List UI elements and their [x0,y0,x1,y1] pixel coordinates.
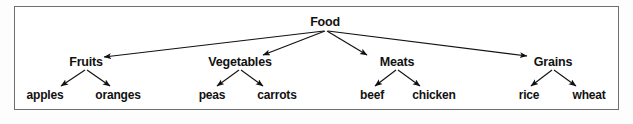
tree-node-leaf: apples [27,88,64,102]
tree-node-leaf: beef [360,88,384,102]
tree-node-category: Grains [534,55,572,69]
tree-edge-arrow [398,70,420,86]
tree-edge-arrow [554,70,576,86]
tree-edge-arrow [217,70,239,86]
tree-node-leaf: rice [519,88,540,102]
tree-edge-arrow [531,70,552,86]
tree-edge-arrow [61,70,85,86]
tree-node-leaf: chicken [412,88,455,102]
tree-edge-arrow [328,31,527,56]
tree-node-root: Food [310,15,340,29]
tree-node-leaf: carrots [257,88,296,102]
tree-node-leaf: peas [199,88,226,102]
tree-edge-arrow [375,70,396,86]
tree-node-leaf: oranges [95,88,140,102]
tree-edge-arrow [87,70,110,86]
tree-node-category: Vegetables [208,55,271,69]
tree-node-category: Meats [380,55,414,69]
tree-node-leaf: wheat [572,88,605,102]
tree-node-category: Fruits [69,55,103,69]
tree-edge-arrow [241,70,263,86]
diagram-screenshot: FoodFruitsVegetablesMeatsGrainsapplesora… [0,0,633,124]
tree-edge-group [61,31,576,86]
